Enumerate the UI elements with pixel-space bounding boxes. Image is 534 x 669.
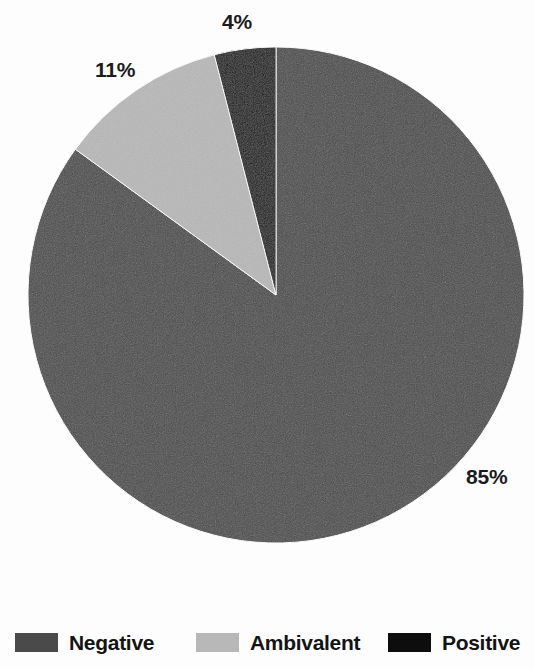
pie-slice-label-ambivalent: 11% bbox=[95, 59, 135, 80]
legend-item-ambivalent[interactable]: Ambivalent bbox=[196, 626, 360, 658]
pie-chart-plot-area: 4% 11% 85% bbox=[0, 0, 534, 600]
legend-label-negative: Negative bbox=[69, 632, 154, 653]
legend-swatch-negative bbox=[15, 633, 58, 652]
legend-swatch-ambivalent bbox=[196, 633, 239, 652]
pie-chart-svg bbox=[0, 0, 534, 600]
legend-item-negative[interactable]: Negative bbox=[15, 626, 154, 658]
pie-chart-figure: 4% 11% 85% Negative Ambivalent Positive bbox=[0, 0, 534, 669]
legend-label-ambivalent: Ambivalent bbox=[250, 632, 360, 653]
chart-legend: Negative Ambivalent Positive bbox=[0, 626, 534, 669]
pie-slice-label-negative: 85% bbox=[466, 466, 507, 487]
legend-item-positive[interactable]: Positive bbox=[388, 626, 520, 658]
legend-swatch-positive bbox=[388, 633, 431, 652]
pie-slice-label-positive: 4% bbox=[222, 11, 252, 32]
legend-label-positive: Positive bbox=[442, 632, 520, 653]
